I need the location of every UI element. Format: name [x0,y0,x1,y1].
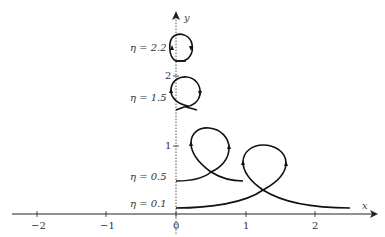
arrow-icon [198,91,202,96]
curve-eta-0-5 [176,128,243,181]
arrow-icon [284,161,288,166]
curve-eta-1-5 [169,77,202,110]
x-tick-label: −2 [31,221,46,231]
arrow-icon [170,45,174,50]
arrow-icon [241,160,245,165]
curve-label-eta-0-1: η = 0.1 [130,199,167,209]
y-axis-label: y [184,13,190,23]
x-tick-label: 1 [243,221,249,231]
x-tick-label: −1 [100,221,115,231]
x-tick-label: 2 [312,221,318,231]
curve-label-eta-0-5: η = 0.5 [130,172,167,182]
x-tick-label: 0 [173,221,179,231]
arrow-icon [169,88,173,93]
y-tick-label: 2 [165,71,171,81]
x-axis [12,211,376,217]
diagram-canvas [0,0,385,237]
curve-eta-2-2 [170,34,193,61]
x-axis-label: x [362,201,368,211]
arrow-icon [227,144,231,149]
curve-label-eta-1-5: η = 1.5 [130,93,167,103]
arrow-icon [189,141,193,146]
curve-label-eta-2-2: η = 2.2 [130,43,167,53]
y-tick-label: 1 [165,141,171,151]
y-axis [172,11,180,234]
